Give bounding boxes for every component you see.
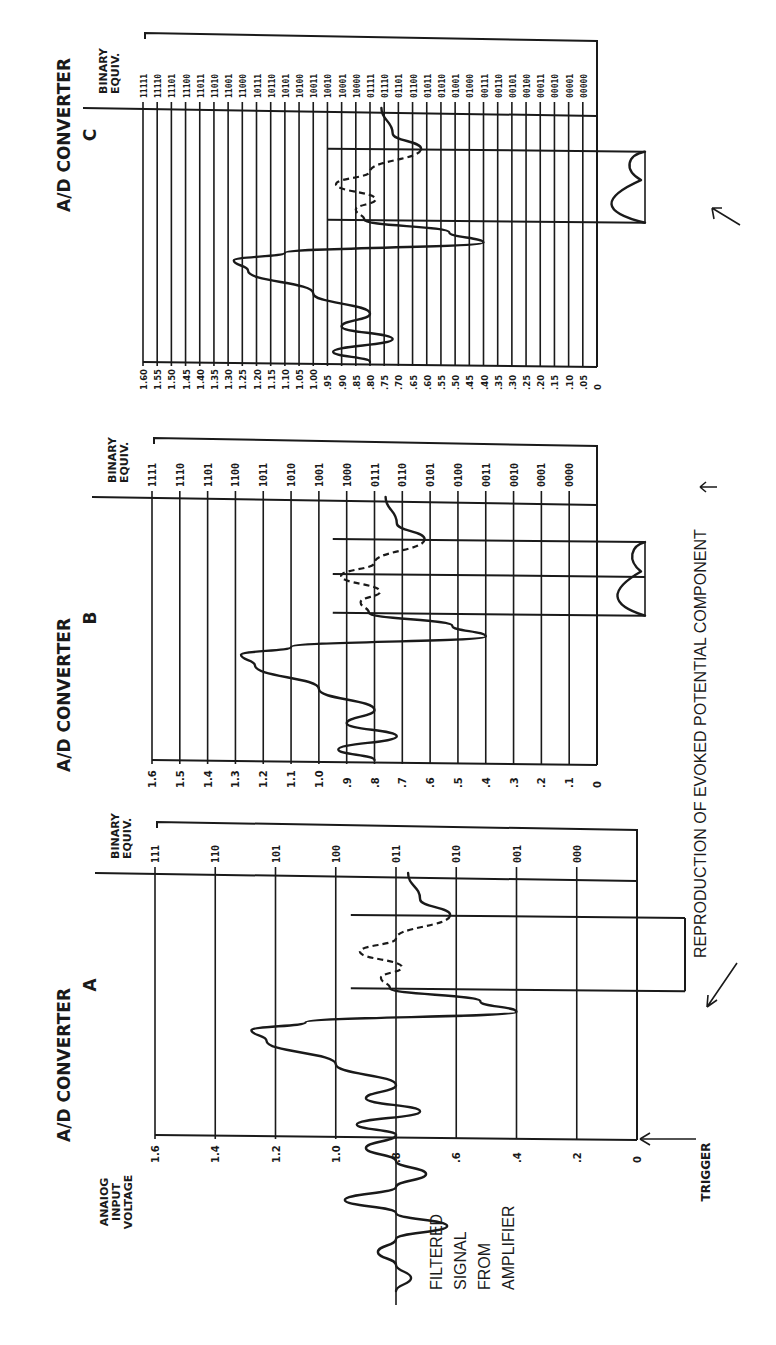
binary-code-label: 01101 [395,74,404,98]
voltage-tick-label: .75 [380,375,390,390]
reproduction-label: REPRODUCTION OF EVOKED POTENTIAL COMPONE… [692,529,709,958]
voltage-tick-label: .45 [465,375,475,390]
voltage-tick-label: .65 [409,375,419,390]
voltage-tick-label: .8 [370,777,381,788]
filtered-signal-line1: FILTERED [428,1214,445,1290]
evoked-component-trace [341,539,425,613]
binary-code-label: 0100 [453,463,464,487]
binary-code-label: 1110 [175,463,186,487]
voltage-tick-label: 1.40 [196,369,206,390]
binary-code-label: 11011 [197,74,206,98]
voltage-tick-label: 1.5 [175,770,186,788]
voltage-tick-label: .4 [512,1152,523,1163]
voltage-tick-label: .10 [565,375,575,390]
voltage-tick-label: .90 [338,375,348,390]
voltage-tick-label: 1.45 [182,369,192,390]
binary-code-label: 001 [512,845,523,863]
voltage-tick-label: .60 [423,375,433,390]
voltage-tick-label: .20 [536,375,546,390]
voltage-tick-label: 1.2 [271,1145,282,1163]
voltage-tick-label: 1.05 [295,369,305,390]
binary-code-label: 01011 [424,74,433,98]
voltage-tick-label: .2 [536,777,547,788]
voltage-tick-label: .70 [394,375,404,390]
voltage-tick-label: .2 [572,1152,583,1163]
binary-code-label: 1011 [258,463,269,487]
analog-axis-title-line3: VOLTAGE [122,1175,135,1230]
voltage-tick-label: 1.6 [147,770,158,788]
binary-code-label: 1000 [342,463,353,487]
analog-axis-title: ANAIOG INPUT VOLTAGE [98,1175,135,1230]
binary-code-label: 00010 [551,74,560,98]
voltage-tick-label: 1.3 [230,770,241,788]
voltage-tick-label: 1.25 [238,369,248,390]
signal-trace [408,873,450,915]
voltage-tick-label: 1.0 [331,1145,342,1163]
binary-axis-title: EQUIV. [121,818,134,859]
voltage-tick-label: .55 [437,375,447,390]
binary-code-label: 00100 [523,74,532,98]
arrow-to-panel-c-icon [712,208,740,225]
binary-code-label: 11000 [239,74,248,98]
voltage-tick-label: 1.30 [224,369,234,390]
binary-code-label: 10110 [268,74,277,98]
ad-converter-diagram: A/D CONVERTER A A/D CONVERTER B A/D CONV… [0,0,776,1345]
panel-top-axis [92,497,597,505]
arrow-to-panel-b-icon [700,482,717,492]
voltage-tick-label: 1.60 [139,369,149,390]
binary-label-box [157,822,637,1140]
voltage-tick-label: 0 [632,1156,643,1163]
panel-c-title-line2: C [80,129,100,141]
binary-code-label: 01111 [367,74,376,98]
filtered-signal-line3: FROM [476,1243,493,1290]
panel-a-title-line2: A [80,978,100,992]
waveform-panel-b [241,497,645,760]
binary-code-label: 00110 [495,74,504,98]
binary-code-label: 011 [391,845,402,863]
voltage-tick-label: 0 [593,384,603,390]
binary-code-label: 01001 [452,74,461,98]
voltage-tick-label: 0 [592,781,603,788]
binary-code-label: 0000 [564,463,575,487]
binary-code-label: 101 [271,845,282,863]
binary-code-label: 01000 [466,74,475,98]
binary-code-label: 0010 [509,463,520,487]
diagram-stage: A/D CONVERTER A A/D CONVERTER B A/D CONV… [0,0,776,1345]
voltage-tick-label: 1.15 [267,369,277,390]
filtered-signal-line4: AMPLIFIER [500,1206,517,1290]
filtered-signal-label: FILTERED SIGNAL FROM AMPLIFIER [428,1206,517,1290]
binary-code-label: 00001 [566,74,575,98]
evoked-component-trace [336,149,421,220]
binary-code-label: 00111 [481,74,490,98]
evoked-window-mid-line [333,574,645,577]
binary-code-label: 100 [331,845,342,863]
panel-a-title-line1: A/D CONVERTER [54,988,74,1142]
panel-b-title: A/D CONVERTER B [54,612,100,772]
voltage-tick-label: .30 [508,375,518,390]
binary-code-label: 10101 [282,74,291,98]
panel-b-title-line1: A/D CONVERTER [54,618,74,772]
binary-code-label: 1010 [286,463,297,487]
voltage-tick-label: 1.55 [153,369,163,390]
voltage-tick-label: 1.50 [167,369,177,390]
voltage-tick-label: .35 [494,375,504,390]
voltage-tick-label: .95 [323,375,333,390]
voltage-tick-label: .85 [352,375,362,390]
voltage-tick-label: .05 [579,375,589,390]
signal-trace [251,988,516,1135]
voltage-tick-label: .15 [550,375,560,390]
voltage-tick-label: .7 [397,777,408,788]
panel-top-axis [83,108,597,116]
reproduced-evoked-trace [617,542,645,616]
binary-code-label: 111 [150,845,161,863]
binary-code-label: 0101 [425,463,436,487]
trigger-label: TRIGGER [699,1142,713,1201]
signal-trace [386,497,425,539]
binary-code-label: 000 [572,845,583,863]
binary-code-label: 11110 [154,74,163,98]
binary-code-label: 11101 [168,74,177,98]
voltage-tick-label: .5 [453,777,464,788]
binary-code-label: 10000 [353,74,362,98]
evoked-window-end-line [333,539,645,542]
voltage-tick-label: .6 [425,777,436,788]
